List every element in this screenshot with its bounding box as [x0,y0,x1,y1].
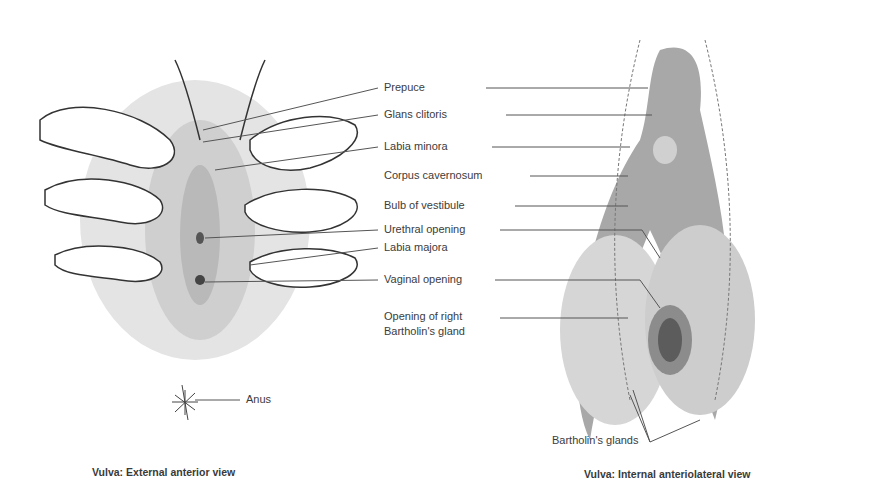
label-prepuce: Prepuce [384,81,425,94]
caption-external-view: Vulva: External anterior view [92,466,235,478]
caption-internal-view: Vulva: Internal anteriolateral view [584,468,751,480]
label-anus: Anus [246,393,271,406]
label-bartholins-glands: Bartholin's glands [552,434,639,447]
label-labia-majora: Labia majora [384,241,448,254]
label-corpus-cavernosum: Corpus cavernosum [384,169,482,182]
label-opening-bartholin-line2: Bartholin's gland [384,325,465,338]
external-view-illustration [40,60,357,420]
label-glans-clitoris: Glans clitoris [384,108,447,121]
label-urethral-opening: Urethral opening [384,223,465,236]
label-bulb-of-vestibule: Bulb of vestibule [384,199,465,212]
label-vaginal-opening: Vaginal opening [384,273,462,286]
label-opening-bartholin-line1: Opening of right [384,310,462,323]
label-labia-minora: Labia minora [384,140,448,153]
internal-view-illustration [560,40,755,440]
